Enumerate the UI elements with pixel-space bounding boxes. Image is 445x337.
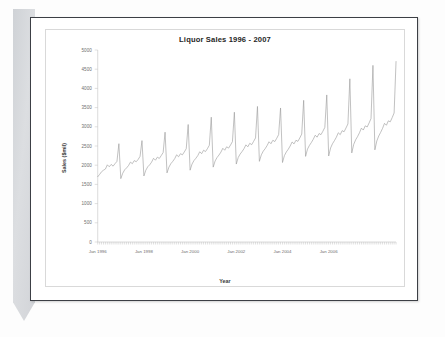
svg-text:4000: 4000 xyxy=(82,86,93,91)
svg-text:Jan 2006: Jan 2006 xyxy=(320,249,339,254)
svg-text:500: 500 xyxy=(84,220,92,225)
svg-text:2500: 2500 xyxy=(82,144,93,149)
svg-text:Jan 2002: Jan 2002 xyxy=(227,249,246,254)
svg-text:5000: 5000 xyxy=(82,48,93,53)
svg-text:Jan 1996: Jan 1996 xyxy=(89,249,108,254)
screenshot-scene: Liquor Sales 1996 - 2007 Sales ($mil) Ye… xyxy=(0,0,445,337)
svg-text:0: 0 xyxy=(89,240,92,245)
page-surface: Liquor Sales 1996 - 2007 Sales ($mil) Ye… xyxy=(31,18,417,300)
svg-text:3500: 3500 xyxy=(82,105,93,110)
line-chart-svg: 0500100015002000250030003500400045005000… xyxy=(46,30,404,286)
svg-text:Jan 2000: Jan 2000 xyxy=(181,249,200,254)
svg-text:Jan 2004: Jan 2004 xyxy=(274,249,293,254)
svg-text:1000: 1000 xyxy=(82,201,93,206)
svg-text:3000: 3000 xyxy=(82,124,93,129)
svg-text:1500: 1500 xyxy=(82,182,93,187)
plot-area: 0500100015002000250030003500400045005000… xyxy=(46,30,404,286)
svg-text:Jan 1998: Jan 1998 xyxy=(135,249,154,254)
svg-text:2000: 2000 xyxy=(82,163,93,168)
svg-text:4500: 4500 xyxy=(82,67,93,72)
chart-frame: Liquor Sales 1996 - 2007 Sales ($mil) Ye… xyxy=(45,29,405,287)
document-page: Liquor Sales 1996 - 2007 Sales ($mil) Ye… xyxy=(30,17,418,301)
